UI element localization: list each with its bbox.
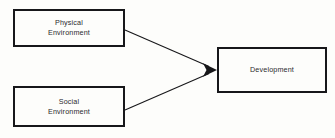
edge-social-to-development bbox=[125, 74, 209, 111]
node-social-environment[interactable]: Social Environment bbox=[13, 86, 125, 127]
arrowhead-icon bbox=[203, 63, 217, 77]
node-social-environment-label: Social Environment bbox=[44, 97, 94, 116]
edge-physical-to-development bbox=[125, 30, 209, 67]
edge-line-social bbox=[125, 74, 209, 111]
node-physical-environment[interactable]: Physical Environment bbox=[13, 9, 125, 47]
edge-line-physical bbox=[125, 30, 209, 67]
node-development[interactable]: Development bbox=[217, 47, 327, 93]
diagram-canvas: Physical Environment Social Environment … bbox=[0, 0, 335, 138]
node-development-label: Development bbox=[246, 65, 298, 75]
node-physical-environment-label: Physical Environment bbox=[44, 18, 94, 37]
